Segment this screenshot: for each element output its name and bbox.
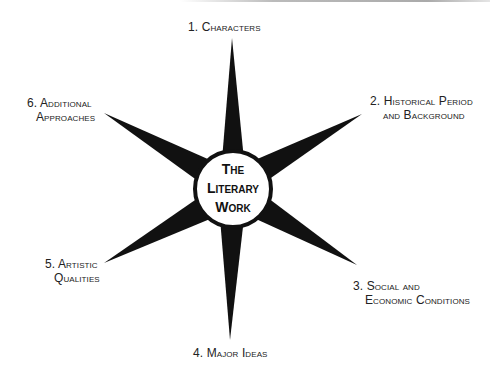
- label-social-economic: 3. Social and Economic Conditions: [353, 279, 470, 307]
- spike-1: [222, 38, 244, 160]
- center-line: The: [193, 160, 273, 179]
- literary-work-diagram: The Literary Work 1. Characters 2. Histo…: [0, 0, 501, 375]
- center-line: Literary: [193, 179, 273, 198]
- label-artistic-qualities: 5. Artistic Qualities: [45, 257, 100, 285]
- spike-4: [220, 218, 244, 340]
- label-major-ideas: 4. Major Ideas: [193, 346, 268, 360]
- label-additional-approaches: 6. Additional Approaches: [27, 96, 95, 124]
- label-characters: 1. Characters: [188, 20, 261, 34]
- center-title: The Literary Work: [193, 160, 273, 217]
- center-line: Work: [193, 198, 273, 217]
- label-historical-period: 2. Historical Period and Background: [370, 94, 473, 122]
